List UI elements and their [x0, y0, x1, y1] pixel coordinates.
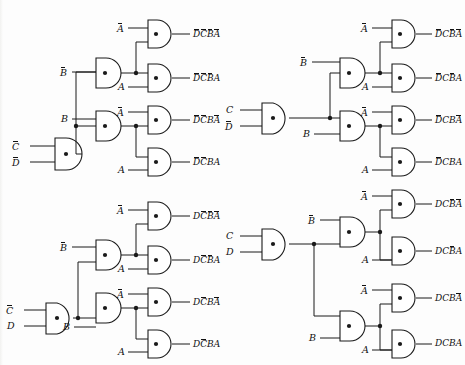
input-label-b: B: [309, 333, 316, 343]
quadrant-bottom-left: C D B B A A A A DCBA DCBA DCBA DCBA: [0, 182, 233, 365]
input-label-b: B: [303, 129, 310, 139]
input-label-abar-1: A: [361, 23, 368, 34]
and-gate-out-3-marker: [154, 118, 158, 122]
and-gate-out-2-marker: [154, 258, 158, 262]
input-label-bbar: B: [300, 57, 307, 68]
and-gate-bbar-upper-marker: [347, 71, 351, 75]
and-gate-b-lower-marker: [347, 124, 351, 128]
input-label-c: C: [6, 305, 13, 316]
and-gate-cd-marker: [271, 116, 275, 120]
and-gate-out-3: [148, 288, 171, 316]
and-gate-b-lower-marker: [103, 306, 107, 310]
and-gate-out-4: [392, 330, 415, 358]
input-label-abar-3: A: [361, 107, 368, 118]
output-label-1: DCBA: [193, 29, 220, 39]
input-label-d: D: [7, 321, 15, 331]
and-gate-out-1-marker: [154, 32, 158, 36]
and-gate-out-1-marker: [398, 32, 402, 36]
input-label-b: B: [63, 322, 70, 332]
and-gate-out-3: [392, 106, 415, 134]
and-gate-bbar-upper: [340, 217, 365, 247]
and-gate-out-3-marker: [154, 300, 158, 304]
and-gate-out-4: [148, 330, 171, 358]
and-gate-out-4-marker: [398, 342, 402, 346]
input-label-bbar: B: [60, 67, 67, 78]
and-gate-cd-marker: [271, 242, 275, 246]
input-label-a-2: A: [118, 264, 125, 274]
output-label-3: DCBA: [435, 115, 462, 125]
quadrant-bottom-right: C D B B A A A A DCBA DCBA DCBA DCBA: [232, 182, 465, 365]
output-label-1: DCBA: [193, 211, 220, 221]
output-label-3: DCBA: [193, 115, 220, 125]
quadrant-top-right: C D B B A A A A DCBA DCBA DCBA DCBA: [232, 0, 465, 183]
and-gate-out-3: [392, 284, 415, 312]
and-gate-bbar-upper-marker: [347, 230, 351, 234]
input-label-abar-1: A: [361, 191, 368, 202]
output-label-2: DCBA: [435, 246, 462, 256]
output-label-2: DCBA: [193, 73, 220, 83]
and-gate-out-1: [148, 202, 171, 230]
output-label-4: DCBA: [435, 157, 462, 167]
and-gate-out-1-marker: [154, 214, 158, 218]
input-label-d: D: [226, 247, 234, 257]
output-label-4: DCBA: [193, 157, 220, 167]
output-label-2: DCBA: [435, 73, 462, 83]
and-gate-out-2: [392, 64, 415, 92]
input-label-abar-3: A: [117, 289, 124, 300]
and-gate-out-4-marker: [154, 160, 158, 164]
output-label-2: DCBA: [193, 255, 220, 265]
circuit-diagram-page: C D B B A A A A DCBA DCBA DCBA DCBA: [0, 0, 465, 365]
input-label-a-4: A: [118, 165, 125, 175]
output-label-3: DCBA: [435, 293, 462, 303]
and-gate-out-4: [148, 148, 171, 176]
and-gate-out-2: [392, 237, 415, 265]
input-label-a-2: A: [362, 255, 369, 265]
wiring-bottom-right: [232, 182, 465, 365]
and-gate-b-lower: [340, 311, 365, 341]
and-gate-out-1: [392, 190, 415, 218]
quadrant-top-left: C D B B A A A A DCBA DCBA DCBA DCBA: [0, 0, 233, 183]
and-gate-bbar-upper-marker: [103, 71, 107, 75]
input-label-abar-1: A: [117, 205, 124, 216]
and-gate-cd-marker: [55, 316, 59, 320]
output-label-4: DCBA: [435, 339, 462, 348]
wiring-top-right: [232, 0, 465, 183]
and-gate-out-2-marker: [398, 76, 402, 80]
input-label-a-2: A: [118, 82, 125, 92]
input-label-c: C: [226, 105, 233, 115]
and-gate-b-lower-marker: [347, 324, 351, 328]
input-label-c: C: [12, 141, 19, 152]
and-gate-out-3-marker: [398, 296, 402, 300]
input-label-a-2: A: [362, 82, 369, 92]
and-gate-b-lower-marker: [103, 124, 107, 128]
and-gate-out-2: [148, 64, 171, 92]
input-label-abar-3: A: [117, 107, 124, 118]
input-label-abar-3: A: [361, 285, 368, 296]
input-label-bbar: B: [60, 242, 67, 253]
and-gate-cd-marker: [64, 152, 68, 156]
output-label-4: DCBA: [193, 339, 220, 349]
and-gate-out-1: [148, 20, 171, 48]
and-gate-out-2: [148, 246, 171, 274]
input-label-abar-1: A: [117, 23, 124, 34]
and-gate-out-2-marker: [398, 249, 402, 253]
output-label-1: DCBA: [435, 29, 462, 39]
input-label-d: D: [225, 121, 233, 132]
and-gate-out-4-marker: [398, 160, 402, 164]
input-label-c: C: [226, 231, 233, 241]
and-gate-out-4-marker: [154, 342, 158, 346]
and-gate-out-3-marker: [398, 118, 402, 122]
input-label-a-4: A: [362, 165, 369, 175]
output-label-3: DCBA: [193, 297, 220, 307]
and-gate-out-2-marker: [154, 76, 158, 80]
input-label-bbar: B: [308, 215, 315, 226]
input-label-a-4: A: [362, 345, 369, 355]
input-label-a-4: A: [118, 347, 125, 357]
and-gate-out-1-marker: [398, 202, 402, 206]
and-gate-out-1: [392, 20, 415, 48]
input-label-b: B: [61, 114, 68, 124]
and-gate-out-3: [148, 106, 171, 134]
and-gate-bbar-upper-marker: [103, 253, 107, 257]
input-label-d: D: [12, 157, 20, 168]
and-gate-out-4: [392, 148, 415, 176]
